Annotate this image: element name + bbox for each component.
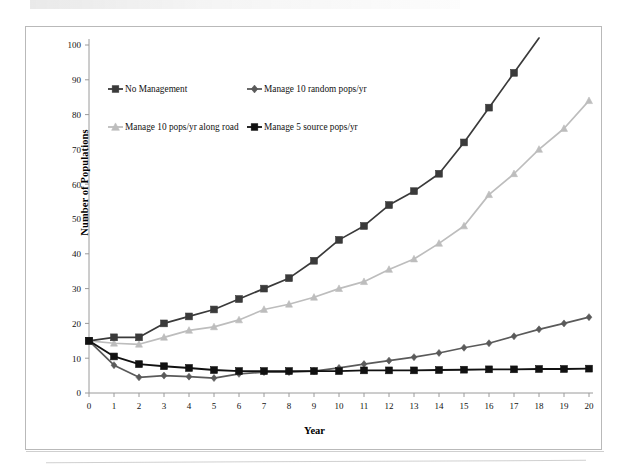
svg-text:8: 8 xyxy=(287,401,292,411)
svg-text:16: 16 xyxy=(485,401,495,411)
svg-text:Manage 5 source pops/yr: Manage 5 source pops/yr xyxy=(264,122,359,132)
svg-text:15: 15 xyxy=(460,401,470,411)
svg-text:90: 90 xyxy=(72,75,82,85)
svg-text:2: 2 xyxy=(137,401,142,411)
svg-text:14: 14 xyxy=(435,401,445,411)
axes: 0102030405060708090100012345678910111213… xyxy=(68,39,595,411)
svg-text:20: 20 xyxy=(585,401,595,411)
series-3 xyxy=(86,337,593,374)
line-chart: 0102030405060708090100012345678910111213… xyxy=(26,27,603,451)
svg-text:3: 3 xyxy=(162,401,167,411)
svg-text:13: 13 xyxy=(410,401,420,411)
page-bottom-rule xyxy=(46,460,586,463)
svg-text:Manage 10 pops/yr along road: Manage 10 pops/yr along road xyxy=(125,122,239,132)
svg-text:100: 100 xyxy=(68,40,82,50)
svg-text:10: 10 xyxy=(335,401,345,411)
legend-item: Manage 10 random pops/yr xyxy=(247,84,367,94)
legend-item: No Management xyxy=(108,84,188,94)
svg-text:19: 19 xyxy=(560,401,570,411)
x-axis-title: Year xyxy=(26,425,603,436)
svg-text:0: 0 xyxy=(87,401,92,411)
svg-text:18: 18 xyxy=(535,401,545,411)
legend-item: Manage 5 source pops/yr xyxy=(247,122,359,132)
svg-text:4: 4 xyxy=(187,401,192,411)
svg-text:No Management: No Management xyxy=(125,84,188,94)
svg-text:10: 10 xyxy=(72,354,82,364)
svg-text:30: 30 xyxy=(72,284,82,294)
legend: No ManagementManage 10 random pops/yrMan… xyxy=(108,84,367,132)
chart-frame: 0102030405060708090100012345678910111213… xyxy=(25,26,602,450)
svg-text:7: 7 xyxy=(262,401,267,411)
svg-text:Manage 10 random pops/yr: Manage 10 random pops/yr xyxy=(264,84,367,94)
svg-text:6: 6 xyxy=(237,401,242,411)
series-2 xyxy=(86,97,593,347)
svg-text:20: 20 xyxy=(72,319,82,329)
page-top-artifact xyxy=(30,0,460,9)
legend-item: Manage 10 pops/yr along road xyxy=(108,122,239,132)
frame-shadow xyxy=(26,451,604,452)
y-axis-title: Number of Populations xyxy=(79,103,90,263)
svg-text:0: 0 xyxy=(77,388,82,398)
svg-text:9: 9 xyxy=(312,401,317,411)
svg-text:5: 5 xyxy=(212,401,217,411)
svg-text:1: 1 xyxy=(112,401,117,411)
svg-text:12: 12 xyxy=(385,401,394,411)
svg-text:17: 17 xyxy=(510,401,520,411)
plot-area: 0102030405060708090100012345678910111213… xyxy=(26,27,603,451)
svg-text:11: 11 xyxy=(360,401,369,411)
figure-page: 0102030405060708090100012345678910111213… xyxy=(0,0,628,471)
